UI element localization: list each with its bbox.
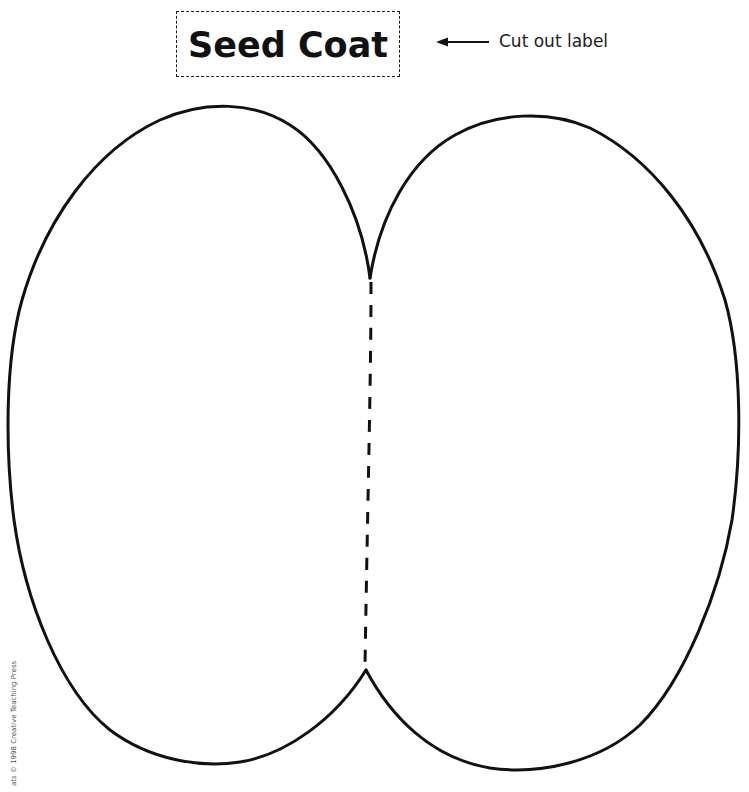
left-lobe-outline (8, 106, 370, 764)
copyright-notice: ats © 1998 Creative Teaching Press (10, 646, 18, 786)
worksheet-page: Seed Coat Cut out label ats © 1998 Creat… (0, 0, 749, 792)
fold-line-dashed (365, 282, 371, 666)
seed-coat-outline (0, 0, 749, 792)
right-lobe-outline (366, 116, 739, 770)
